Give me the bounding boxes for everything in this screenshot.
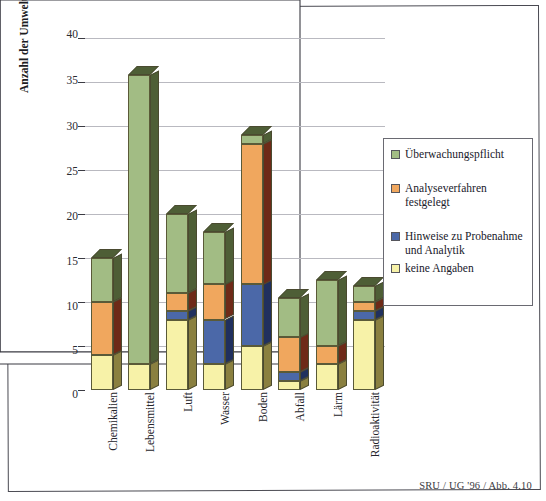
bar-segment-side — [188, 315, 197, 390]
x-tick-label: Lärm — [332, 392, 344, 472]
y-axis-title: Anzahl der Umweltstandardlisten — [18, 0, 30, 110]
bar-segment — [91, 258, 113, 302]
x-tick-label: Luft — [182, 392, 194, 472]
bar-segment-side — [113, 254, 122, 302]
bar-segment-side — [188, 210, 197, 294]
bar-segment — [241, 135, 263, 144]
bar-segment — [203, 284, 225, 319]
bar-segment — [128, 75, 150, 364]
bar-segment — [128, 364, 150, 390]
bar-segment — [166, 311, 188, 320]
x-tick-label: Chemikalien — [107, 392, 119, 472]
bar-segment — [166, 214, 188, 293]
bar-segment-side — [300, 293, 309, 337]
x-tick-label: Abfall — [294, 392, 306, 472]
bar-segment — [278, 381, 300, 390]
x-tick-label: Boden — [257, 392, 269, 472]
bar-segment — [166, 293, 188, 311]
bar-segment-side — [375, 315, 384, 390]
bar-segment-side — [113, 298, 122, 355]
bar-segment — [203, 232, 225, 285]
figure-container: 40 35 30 25 20 15 10 5 0 Anzahl der Umwe… — [0, 0, 546, 501]
y-tick-label: 30 — [67, 120, 79, 132]
legend-item-keine-angaben[interactable]: keine Angaben — [391, 261, 526, 275]
legend-label: Analyseverfahren festgelegt — [405, 181, 526, 209]
bar-segment — [166, 320, 188, 390]
bar-segment — [353, 311, 375, 320]
bar-segment — [91, 355, 113, 390]
legend-label: keine Angaben — [405, 261, 474, 275]
bar-segment — [316, 346, 338, 364]
legend-item-analyseverfahren[interactable]: Analyseverfahren festgelegt — [391, 181, 526, 209]
bar-segment — [241, 346, 263, 390]
bar-segment — [278, 372, 300, 381]
y-tick-label: 15 — [67, 255, 79, 267]
legend-item-hinweise[interactable]: Hinweise zu Probenahme und Analytik — [391, 229, 526, 257]
bar-segment-side — [263, 342, 272, 390]
bar-segment-side — [150, 359, 159, 390]
bar-segment-side — [113, 350, 122, 390]
bar-segment-side — [300, 333, 309, 373]
bar-segment-side — [225, 359, 234, 390]
legend-swatch-green — [391, 150, 400, 159]
bar-segment — [353, 320, 375, 390]
bar-segment — [241, 144, 263, 285]
bar-segment — [278, 298, 300, 338]
legend-item-uberwachungspflicht[interactable]: Überwachungspflicht — [391, 147, 526, 161]
bar-segment — [278, 337, 300, 372]
y-tick-label: 35 — [67, 74, 79, 86]
bar-segment-side — [338, 359, 347, 390]
bar-segment-side — [150, 71, 159, 364]
x-tick-label: Wasser — [219, 392, 231, 472]
bar-segment-side — [338, 276, 347, 346]
bar-segment-side — [225, 315, 234, 363]
x-tick-label: Radioaktivität — [369, 392, 381, 472]
x-tick-label: Lebensmittel — [144, 392, 156, 472]
legend-spacer — [391, 163, 526, 181]
bar-segment — [353, 286, 375, 302]
y-tick-label: 20 — [67, 210, 79, 222]
bar-segment-side — [263, 139, 272, 284]
legend-label: Hinweise zu Probenahme und Analytik — [405, 229, 526, 257]
bar-segment — [203, 320, 225, 364]
x-axis-tick-labels: ChemikalienLebensmittelLuftWasserBodenAb… — [85, 394, 385, 474]
bar-segment-side — [225, 280, 234, 320]
legend-swatch-yellow — [391, 264, 400, 273]
bar-segment — [353, 302, 375, 311]
bar-series-container — [85, 38, 385, 390]
y-tick-label: 5 — [72, 344, 78, 356]
bar-segment — [241, 284, 263, 346]
y-axis-tick-labels: 40 35 30 25 20 15 10 5 0 — [48, 38, 78, 390]
y-tick-label: 0 — [72, 388, 78, 400]
y-tick-label: 10 — [67, 300, 79, 312]
bar-segment — [316, 280, 338, 346]
bar-segment-side — [263, 280, 272, 346]
y-tick-label: 40 — [67, 28, 79, 40]
legend-swatch-blue — [391, 232, 400, 241]
legend-spacer — [391, 211, 526, 229]
legend: Überwachungspflicht Analyseverfahren fes… — [383, 138, 533, 306]
legend-swatch-orange — [391, 184, 400, 193]
bar-segment — [203, 364, 225, 390]
bar-segment — [91, 302, 113, 355]
legend-label: Überwachungspflicht — [405, 147, 504, 161]
bar-segment — [316, 364, 338, 390]
y-tick-label: 25 — [67, 165, 79, 177]
source-caption: SRU / UG '96 / Abb. 4.10 — [419, 480, 532, 491]
bar-segment-side — [225, 227, 234, 284]
